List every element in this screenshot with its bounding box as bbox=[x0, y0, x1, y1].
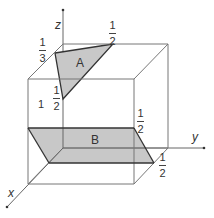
plane-a-label: A bbox=[76, 57, 84, 69]
y-axis-label: y bbox=[192, 131, 198, 143]
fraction-z-intercept-b: 12 bbox=[137, 108, 144, 135]
axes bbox=[7, 10, 204, 207]
fraction-y-intercept-a: 12 bbox=[109, 20, 116, 47]
fraction-x-intercept-b: 12 bbox=[159, 152, 166, 179]
z-axis-label: z bbox=[55, 19, 61, 31]
fraction-z-intercept-a: 13 bbox=[39, 37, 46, 64]
cube-edge-label: 1 bbox=[38, 99, 44, 110]
crystal-planes-diagram bbox=[0, 0, 214, 218]
x-axis bbox=[7, 148, 63, 207]
fraction-x-intercept-a: 12 bbox=[53, 85, 60, 112]
plane-b-label: B bbox=[91, 134, 99, 146]
plane-a bbox=[55, 44, 113, 99]
x-axis-label: x bbox=[8, 187, 14, 199]
